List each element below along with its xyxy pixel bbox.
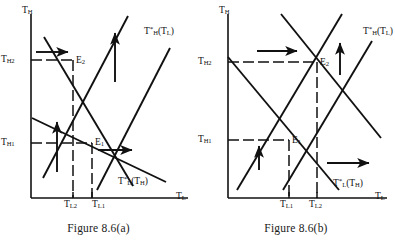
curve-label-TL-star-b: T*L(TH): [333, 178, 363, 189]
ytick-label-T-H2-a: TH2: [1, 55, 14, 65]
curve-label-TH-star-a: T*H(TL): [144, 26, 174, 37]
equilibrium-label-E2-a: E2: [76, 56, 85, 66]
axis-label-y-b: TH: [219, 6, 229, 16]
guide-lines-E2-a: [31, 60, 73, 198]
axis-label-x-b: TL: [375, 192, 385, 202]
xtick-label-T-L1-b: TL1: [280, 200, 293, 210]
equilibrium-label-E1-b: E1: [292, 136, 301, 146]
axis-label-x-a: TL: [176, 192, 186, 202]
figure-pair: TH TL TH2 TH1 TL2 TL1 E2 E1 T*H(TL) T*L(…: [0, 0, 395, 244]
equilibrium-label-E1-a: E1: [95, 138, 104, 148]
figure-panel-b: TH TL TH2 TH1 TL1 TL2 E2 E1 T*H(TL) T*L(…: [197, 0, 395, 244]
guide-lines-E1-a: [31, 143, 92, 198]
xtick-label-T-L2-b: TL2: [309, 200, 322, 210]
curve-label-TH-star-b: T*H(TL): [363, 26, 393, 37]
curve-TH-star-shifted-a: [97, 48, 170, 190]
ytick-label-T-H1-b: TH1: [198, 135, 211, 145]
axis-label-y-a: TH: [22, 6, 32, 16]
figure-caption-a: Figure 8.6(a): [0, 222, 197, 234]
figure-panel-a: TH TL TH2 TH1 TL2 TL1 E2 E1 T*H(TL) T*L(…: [0, 0, 197, 244]
curve-label-TL-star-a: T*L(TH): [118, 176, 148, 187]
ytick-label-T-H1-a: TH1: [1, 138, 14, 148]
figure-caption-b: Figure 8.6(b): [197, 222, 395, 234]
xtick-label-T-L1-a: TL1: [92, 200, 105, 210]
xtick-label-T-L2-a: TL2: [64, 200, 77, 210]
equilibrium-label-E2-b: E2: [320, 58, 329, 68]
ytick-label-T-H2-b: TH2: [198, 57, 211, 67]
